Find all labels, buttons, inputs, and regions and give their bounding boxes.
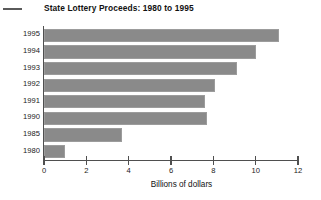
y-axis-tick-label: 1994 xyxy=(23,46,40,55)
chart-figure: State Lottery Proceeds: 1980 to 1995 024… xyxy=(0,0,321,200)
bar xyxy=(44,62,237,75)
x-axis-tick xyxy=(297,156,298,165)
x-axis-tick-label: 6 xyxy=(169,166,173,175)
bar xyxy=(44,128,122,141)
x-axis-tick-label: 10 xyxy=(251,166,259,175)
bar xyxy=(44,145,65,158)
x-axis-tick xyxy=(255,156,256,165)
plot-area: 024681012 199519941993199219911990198519… xyxy=(0,0,321,200)
y-axis-tick-label: 1990 xyxy=(23,112,40,121)
bar xyxy=(44,79,215,92)
x-axis-tick-label: 0 xyxy=(42,166,46,175)
bar xyxy=(44,95,205,108)
x-axis-tick-label: 12 xyxy=(294,166,302,175)
bar xyxy=(44,45,256,58)
y-axis-tick-label: 1993 xyxy=(23,63,40,72)
x-axis-tick xyxy=(213,156,214,165)
x-axis-tick-label: 2 xyxy=(84,166,88,175)
x-axis-title: Billions of dollars xyxy=(0,180,321,189)
y-axis-tick-label: 1995 xyxy=(23,29,40,38)
x-axis-tick xyxy=(128,156,129,165)
x-axis-tick-label: 8 xyxy=(211,166,215,175)
y-axis-tick-label: 1985 xyxy=(23,129,40,138)
y-axis-tick-label: 1991 xyxy=(23,96,40,105)
x-axis-tick xyxy=(170,156,171,165)
x-axis-tick-label: 4 xyxy=(127,166,131,175)
y-axis-tick-label: 1980 xyxy=(23,146,40,155)
bar xyxy=(44,112,207,125)
x-axis-tick xyxy=(86,156,87,165)
x-axis-title-text: Billions of dollars xyxy=(109,180,212,189)
y-axis-tick-label: 1992 xyxy=(23,79,40,88)
bar xyxy=(44,29,279,42)
x-axis-tick xyxy=(43,156,44,165)
